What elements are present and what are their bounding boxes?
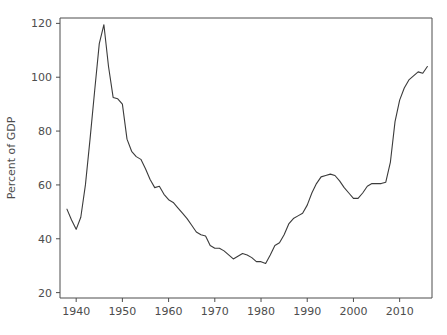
y-tick-label-20: 20 <box>38 287 52 300</box>
y-axis-ticks <box>56 23 60 292</box>
x-tick-label-1970: 1970 <box>201 305 229 318</box>
series-line-0 <box>67 25 427 264</box>
y-tick-label-40: 40 <box>38 233 52 246</box>
y-tick-label-80: 80 <box>38 125 52 138</box>
y-axis-tick-labels: 20406080100120 <box>31 17 52 299</box>
x-tick-label-1950: 1950 <box>108 305 136 318</box>
data-series-group <box>67 25 427 264</box>
line-chart: 20406080100120 1940195019601970198019902… <box>0 0 447 335</box>
chart-page: 20406080100120 1940195019601970198019902… <box>0 0 447 335</box>
plot-frame <box>60 18 432 298</box>
x-tick-label-2010: 2010 <box>386 305 414 318</box>
y-tick-label-60: 60 <box>38 179 52 192</box>
x-tick-label-2000: 2000 <box>339 305 367 318</box>
y-tick-label-100: 100 <box>31 71 52 84</box>
x-axis-tick-labels: 19401950196019701980199020002010 <box>62 305 413 318</box>
x-tick-label-1980: 1980 <box>247 305 275 318</box>
x-tick-label-1960: 1960 <box>155 305 183 318</box>
x-tick-label-1940: 1940 <box>62 305 90 318</box>
x-axis-ticks <box>76 298 399 302</box>
y-axis-title: Percent of GDP <box>5 116 18 199</box>
y-tick-label-120: 120 <box>31 17 52 30</box>
x-tick-label-1990: 1990 <box>293 305 321 318</box>
